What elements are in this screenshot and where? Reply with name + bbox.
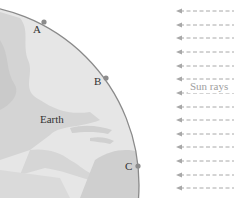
sun-ray xyxy=(176,36,234,41)
point-c-label: C xyxy=(125,160,132,172)
sun-ray xyxy=(176,186,234,191)
sun-ray xyxy=(176,132,234,137)
sun-ray xyxy=(176,173,234,178)
sun-ray xyxy=(176,9,234,14)
sun-rays-label: Sun rays xyxy=(190,80,228,92)
sun-earth-diagram: A B C Earth Sun rays xyxy=(0,0,249,198)
sun-ray xyxy=(176,118,234,123)
point-a-label: A xyxy=(33,23,41,35)
sun-ray xyxy=(176,105,234,110)
sun-ray xyxy=(176,50,234,55)
point-b-label: B xyxy=(94,75,101,87)
sun-ray xyxy=(176,64,234,69)
sun-rays xyxy=(176,9,234,191)
sun-ray xyxy=(176,145,234,150)
sun-ray xyxy=(176,159,234,164)
sun-ray xyxy=(176,23,234,28)
earth-label: Earth xyxy=(40,113,64,125)
